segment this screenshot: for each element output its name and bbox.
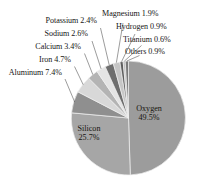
leader-line-aluminum bbox=[65, 79, 75, 102]
inner-label-silicon-name: Silicon bbox=[67, 124, 111, 133]
pie-chart-canvas bbox=[0, 0, 201, 185]
callout-label-hydrogen: Hydrogen 0.9% bbox=[116, 22, 167, 31]
leader-line-calcium bbox=[85, 54, 93, 75]
leader-line-others bbox=[127, 56, 140, 62]
callout-label-potassium: Potassium 2.4% bbox=[28, 16, 97, 25]
callout-label-titanium: Titanium 0.6% bbox=[123, 35, 171, 44]
callout-label-sodium: Sodium 2.6% bbox=[23, 29, 88, 38]
callout-label-iron: Iron 4.7% bbox=[16, 55, 71, 64]
callout-label-magnesium: Magnesium 1.9% bbox=[102, 9, 158, 18]
callout-label-others: Others 0.9% bbox=[125, 47, 165, 56]
inner-label-silicon: Silicon 25.7% bbox=[67, 124, 111, 143]
inner-label-silicon-value: 25.7% bbox=[67, 133, 111, 142]
leader-line-iron bbox=[75, 67, 84, 85]
callout-label-aluminum: Aluminum 7.4% bbox=[2, 68, 62, 77]
inner-label-oxygen: Oxygen 49.5% bbox=[126, 104, 172, 123]
leader-line-potassium bbox=[101, 28, 110, 65]
leader-line-sodium bbox=[92, 41, 101, 69]
pie-chart-figure: Magnesium 1.9% Hydrogen 0.9% Titanium 0.… bbox=[0, 0, 201, 185]
pie-slice-silicon[interactable] bbox=[71, 113, 130, 175]
inner-label-oxygen-name: Oxygen bbox=[126, 104, 172, 113]
inner-label-oxygen-value: 49.5% bbox=[126, 113, 172, 122]
callout-label-calcium: Calcium 3.4% bbox=[18, 42, 81, 51]
